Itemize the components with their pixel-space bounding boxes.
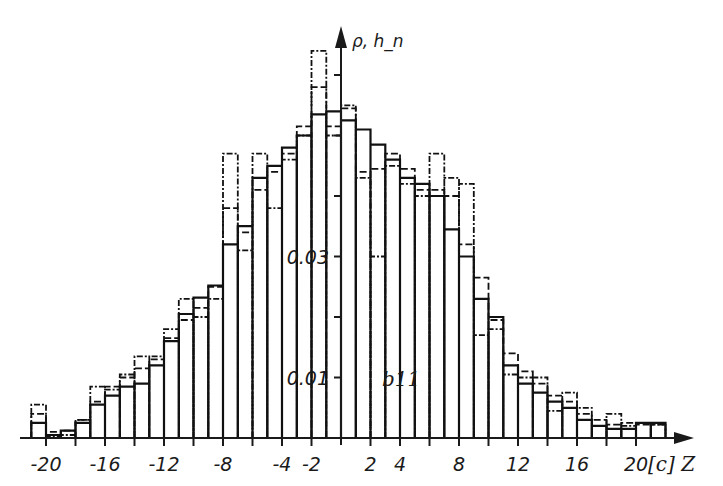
y-axis-label: ρ, h_n [352, 31, 404, 52]
panel-annotation: b11 [382, 367, 420, 391]
x-tick-label: 16 [565, 453, 589, 475]
x-tick-label: -12 [148, 453, 179, 475]
x-tick-label: -16 [89, 453, 120, 475]
x-tick-label: 4 [394, 453, 406, 475]
histogram-series-group [0, 51, 723, 486]
histogram-series-dash-dot [31, 51, 665, 438]
x-tick-label: -2 [302, 453, 321, 475]
x-tick-label: 8 [453, 453, 465, 475]
x-tick-label: -8 [214, 453, 233, 475]
histogram-series-solid [31, 111, 665, 438]
x-tick-label: 20 [624, 453, 648, 475]
y-tick-label: 0.03 [287, 246, 329, 268]
y-tick-label: 0.01 [287, 367, 329, 389]
x-tick-label: 12 [506, 453, 530, 475]
x-axis-label: [c] Z [648, 452, 696, 476]
histogram-series-dashed [31, 87, 665, 438]
x-tick-label: -4 [273, 453, 292, 475]
y-axis-tick-labels: 0.010.03 [287, 246, 329, 389]
histogram-chart: -20-16-12-8-4-2248121620 [c] Z 0.010.03 … [0, 0, 723, 486]
x-tick-label: 2 [364, 453, 376, 475]
x-tick-label: -20 [30, 453, 61, 475]
y-axis-arrow-icon [335, 26, 347, 48]
